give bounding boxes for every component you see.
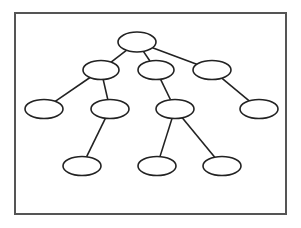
tree-node xyxy=(203,157,241,176)
tree-node xyxy=(138,157,176,176)
tree-node xyxy=(25,100,63,119)
tree-node xyxy=(91,100,129,119)
tree-node xyxy=(63,157,101,176)
tree-node xyxy=(240,100,278,119)
tree-node xyxy=(83,61,119,80)
tree-node xyxy=(118,32,156,52)
tree-node xyxy=(138,61,174,80)
tree-node xyxy=(156,100,194,119)
tree-node xyxy=(193,61,231,80)
tree-diagram xyxy=(0,0,301,228)
